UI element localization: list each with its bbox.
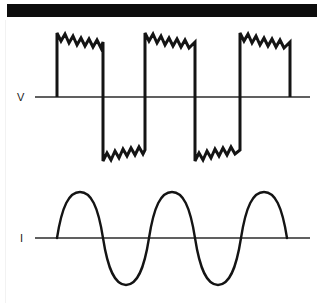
voltage-axis-label: V bbox=[17, 92, 25, 103]
waveform-figure: V I bbox=[0, 0, 322, 308]
waveform-plot bbox=[0, 0, 322, 308]
current-axis-label: I bbox=[20, 233, 23, 244]
